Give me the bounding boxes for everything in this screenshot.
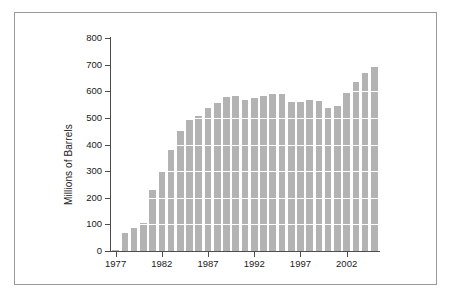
x-tick-label: 1992 [244,259,265,269]
y-tick-mark [105,251,110,252]
bar [122,233,129,251]
bar [306,100,313,251]
y-tick-mark [105,145,110,146]
bar [140,223,147,251]
bar [260,96,267,251]
gridline [111,224,379,225]
bar [186,120,193,251]
y-tick-mark [105,65,110,66]
bar [112,250,119,251]
y-tick-label: 600 [86,86,102,96]
bar [288,102,295,251]
bar [168,150,175,251]
x-tick-label: 1977 [105,259,126,269]
bar [205,108,212,251]
bar [297,102,304,251]
y-tick-mark [105,91,110,92]
y-tick-mark [105,198,110,199]
bar [316,101,323,251]
figure-canvas: Millions of Barrels 01002003004005006007… [0,0,454,298]
gridline [111,91,379,92]
bar [325,108,332,251]
gridline [111,198,379,199]
y-tick-mark [105,224,110,225]
bar [232,96,239,251]
x-tick-label: 1987 [197,259,218,269]
y-tick-label: 0 [97,246,102,256]
y-tick-label: 100 [86,219,102,229]
x-tick-label: 2002 [336,259,357,269]
y-tick-label: 200 [86,193,102,203]
y-tick-label: 400 [86,140,102,150]
bar [334,106,341,251]
gridline [111,38,379,39]
y-axis-title: Millions of Barrels [63,124,74,205]
gridline [111,118,379,119]
y-tick-label: 500 [86,113,102,123]
x-tick-label: 1982 [151,259,172,269]
bar [251,98,258,251]
bar [159,172,166,251]
y-tick-label: 800 [86,33,102,43]
y-tick-mark [105,171,110,172]
x-tick-mark [347,252,348,257]
bar [131,228,138,251]
x-tick-label: 1997 [290,259,311,269]
bar [195,116,202,251]
x-axis-line [110,251,380,252]
bar [242,100,249,251]
bar [214,103,221,251]
x-tick-mark [208,252,209,257]
bar [223,97,230,251]
bar [353,82,360,251]
y-tick-label: 700 [86,60,102,70]
y-tick-mark [105,118,110,119]
gridline [111,65,379,66]
x-tick-mark [162,252,163,257]
x-tick-mark [116,252,117,257]
y-tick-mark [105,38,110,39]
x-tick-mark [300,252,301,257]
x-tick-mark [254,252,255,257]
bar [177,131,184,251]
gridline [111,145,379,146]
y-tick-label: 300 [86,166,102,176]
gridline [111,171,379,172]
